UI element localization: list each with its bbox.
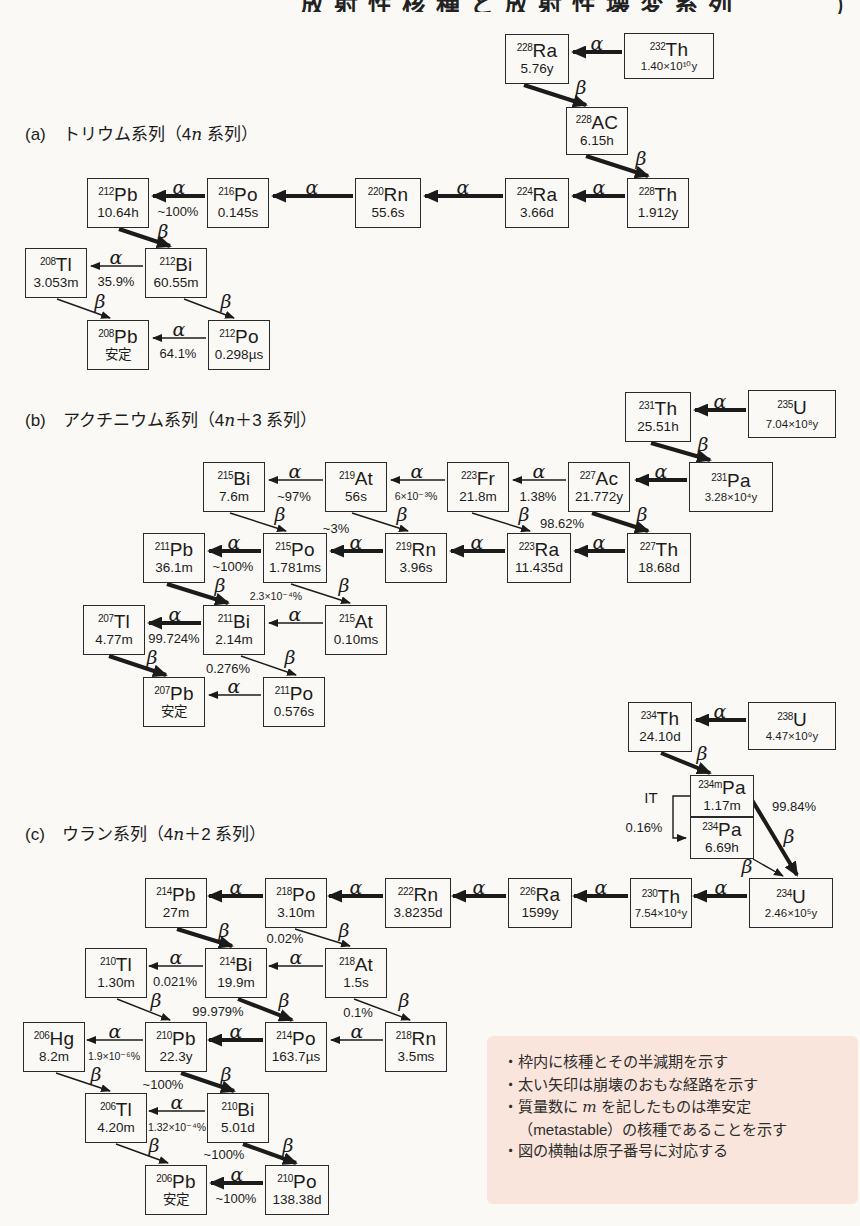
legend-item: ・太い矢印は崩壊のおもな経路を示す [503,1074,844,1097]
half-life: 1.40×10¹⁰y [641,60,697,72]
half-life: 4.20m [97,1121,135,1135]
branch-percent-label: ~100% [143,1077,184,1092]
branch-percent-label: 0.276% [206,661,250,676]
nuclide-box-208Tl: 208Tl3.053m [25,248,87,298]
nuclide-box-215Po: 215Po1.781ms [263,533,327,583]
branch-percent-label: ~100% [216,1191,257,1206]
half-life: 8.2m [39,1050,69,1064]
half-life: 25.51h [637,420,678,434]
alpha-decay-label: α [109,1020,122,1042]
nuclide-box-210Bi: 210Bi5.01d [207,1093,269,1143]
half-life: 56s [345,490,367,504]
beta-decay-label: β [221,1063,232,1085]
nuclide-box-206Tl: 206Tl4.20m [85,1093,147,1143]
half-life: 安定 [163,1193,189,1207]
nuclide-box-210Po: 210Po138.38d [265,1165,329,1215]
nuclide-symbol: 235U [777,398,807,418]
decay-chain-diagram: 放射性核種と放射性壊変系列 ） (a) トリウム系列（4n 系列） (b) アク… [0,0,860,1226]
beta-decay-label: β [151,989,162,1011]
nuclide-symbol: 210Po [277,1172,316,1192]
nuclide-box-215Bi: 215Bi7.6m [203,462,265,512]
nuclide-box-211Po: 211Po0.576s [263,677,325,727]
nuclide-box-234Pa: 234Pa6.69h [690,817,754,859]
half-life: 6.69h [705,841,739,855]
nuclide-box-219At: 219At56s [325,462,387,512]
half-life: 4.77m [95,633,133,647]
nuclide-symbol: 211Bi [218,612,250,632]
nuclide-box-238U: 238U4.47×10⁹y [748,702,836,750]
nuclide-symbol: 212Bi [159,255,192,275]
half-life: 3.66d [520,206,554,220]
nuclide-box-218Rn: 218Rn3.5ms [385,1022,447,1072]
nuclide-symbol: 227Th [640,540,678,560]
nuclide-box-208Pb: 208Pb安定 [87,320,149,370]
branch-percent-label: ~100% [158,204,199,219]
branch-percent-label: 0.16% [626,820,663,835]
nuclide-box-228Th: 228Th1.912y [627,178,689,228]
page-header-partial: 放射性核種と放射性壊変系列 [300,0,780,12]
half-life: 3.28×10⁴y [705,491,758,503]
beta-decay-label: β [147,646,158,668]
alpha-decay-label: α [593,176,606,198]
half-life: 1599y [522,906,559,920]
legend-item: ・質量数に m を記したものは準安定（metastable）の核種であることを示… [503,1096,844,1140]
beta-decay-label: β [283,1134,294,1156]
half-life: 24.10d [639,730,680,744]
half-life: 21.8m [459,490,497,504]
branch-percent-label: 99.84% [772,799,816,814]
nuclide-box-227Th: 227Th18.68d [627,533,691,583]
half-life: 10.64h [97,206,138,220]
legend-item: ・図の横軸は原子番号に対応する [503,1140,844,1163]
half-life: 安定 [105,348,131,362]
beta-decay-label: β [95,290,106,312]
nuclide-box-212Pb: 212Pb10.64h [87,178,149,228]
alpha-decay-label: α [715,876,728,898]
beta-decay-label: β [285,646,296,668]
beta-decay-label: β [742,855,753,877]
half-life: 5.76y [520,62,553,76]
nuclide-box-224Ra: 224Ra3.66d [505,178,569,228]
branch-percent-label: 1.9×10⁻⁶% [88,1050,140,1062]
beta-decay-label: β [397,503,408,525]
nuclide-box-206Hg: 206Hg8.2m [23,1022,85,1072]
alpha-decay-label: α [231,1163,244,1185]
half-life: 1.5s [343,976,369,990]
alpha-decay-label: α [171,1091,184,1113]
nuclide-symbol: 234mPa [698,778,745,798]
alpha-decay-label: α [170,946,183,968]
nuclide-symbol: 215Bi [217,469,250,489]
nuclide-symbol: 215At [339,612,373,632]
nuclide-box-218Po: 218Po3.10m [265,878,327,928]
nuclide-symbol: 220Rn [368,185,409,205]
alpha-decay-label: α [228,531,241,553]
nuclide-symbol: 227Ac [580,469,618,489]
alpha-decay-label: α [173,318,186,340]
nuclide-symbol: 228AC [576,113,619,133]
half-life: 36.1m [155,561,193,575]
nuclide-symbol: 223Fr [461,469,495,489]
nuclide-box-235U: 235U7.04×10⁸y [748,390,836,438]
half-life: 1.912y [638,206,679,220]
half-life: 21.772y [575,490,623,504]
alpha-decay-label: α [411,460,424,482]
nuclide-symbol: 214Pb [156,885,195,905]
nuclide-box-211Pb: 211Pb36.1m [143,533,205,583]
beta-decay-label: β [576,76,587,98]
nuclide-symbol: 211Pb [155,540,194,560]
alpha-decay-label: α [593,531,606,553]
branch-percent-label: 6×10⁻³% [395,490,437,502]
half-life: 0.298µs [215,348,263,362]
nuclide-box-214Bi: 214Bi19.9m [205,948,267,998]
nuclide-box-218At: 218At1.5s [325,948,387,998]
alpha-decay-label: α [655,460,668,482]
nuclide-symbol: 214Bi [219,955,252,975]
nuclide-box-226Ra: 226Ra1599y [508,878,572,928]
half-life: 3.053m [33,276,78,290]
beta-decay-label: β [219,919,230,941]
alpha-decay-label: α [289,603,302,625]
half-life: 安定 [161,705,187,719]
nuclide-symbol: 210Pb [156,1029,195,1049]
branch-percent-label: 64.1% [160,346,197,361]
beta-decay-label: β [279,989,290,1011]
nuclide-symbol: 214Po [276,1029,315,1049]
